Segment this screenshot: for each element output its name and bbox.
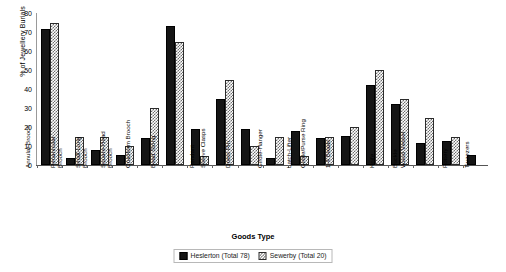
x-category-label: Sleeve Clasps (212, 168, 237, 226)
x-category-label: Small-Long Brooch (87, 168, 112, 226)
x-category-label: Latch-Lifter (288, 168, 313, 226)
y-tick-label: 60 (0, 48, 32, 55)
legend-swatch-heslerton (180, 252, 188, 260)
x-category-label: Knife (363, 168, 388, 226)
x-category-label-text: Girdle/Purse Ring (299, 116, 306, 168)
x-category-label-text: Girdle-Hanger (256, 129, 263, 168)
legend-item-heslerton: Heslerton (Total 78) (180, 252, 250, 260)
bar (451, 137, 460, 166)
y-tick-label: 70 (0, 29, 32, 36)
x-axis-category-labels: Annular BroochPenannular BroochSmall-Lon… (37, 168, 488, 226)
x-category-label: Cruciform Brooch (137, 168, 162, 226)
y-tick-label: 50 (0, 67, 32, 74)
bar (166, 26, 175, 165)
x-category-label-text: Tweezers (462, 142, 469, 168)
x-category-label: Bead String (162, 168, 187, 226)
x-category-label-text: Penannular Brooch (49, 116, 63, 168)
x-category-label: Dress Pin (238, 168, 263, 226)
bar-group (363, 13, 388, 165)
x-category-label: Girdle/Purse Ring (313, 168, 338, 226)
x-category-label-text: 1-4 Beads (324, 116, 331, 168)
y-tick-label: 40 (0, 86, 32, 93)
bar-group (338, 13, 363, 165)
legend-label-heslerton: Heslerton (Total 78) (191, 252, 250, 260)
x-axis-title: Goods Type (0, 232, 506, 241)
y-tick-label: 30 (0, 105, 32, 112)
x-category-label-text: Bead String (149, 116, 156, 168)
legend-swatch-sewerby (259, 252, 267, 260)
x-category-label-text: Pendant (188, 145, 195, 168)
x-category-label: Buckle (388, 168, 413, 226)
legend-item-sewerby: Sewerby (Total 20) (259, 252, 327, 260)
x-category-label: Girdle-Hanger (263, 168, 288, 226)
x-category-label-text: Dress Pin (224, 116, 231, 168)
x-category-label-text: Knife (368, 154, 375, 168)
x-category-label-text: Annular Brooch (24, 116, 31, 168)
bar (425, 118, 434, 166)
x-category-label-text: Pottery (441, 148, 448, 168)
x-category-label-text: Latch-Lifter (285, 137, 292, 168)
bar-group (413, 13, 438, 165)
bar-group (162, 13, 187, 165)
x-category-label-text: Cruciform Brooch (124, 116, 131, 168)
x-category-label-text: Wood Vessel (399, 116, 406, 168)
bar (266, 158, 275, 165)
bar (375, 70, 384, 165)
bar (350, 127, 359, 165)
bar (275, 137, 284, 166)
x-category-label: Square-Head Brooch (112, 168, 137, 226)
bar (241, 129, 250, 165)
legend-label-sewerby: Sewerby (Total 20) (270, 252, 327, 260)
x-category-label: Penannular Brooch (62, 168, 87, 226)
chart-legend: Heslerton (Total 78) Sewerby (Total 20) (174, 249, 333, 263)
x-category-label-text: Buckle (391, 149, 398, 168)
x-category-label: Pendant (187, 168, 212, 226)
x-category-label: Wood Vessel (413, 168, 438, 226)
x-category-label-text: Small-Long Brooch (74, 116, 88, 168)
x-category-label-text: Square-Head Brooch (99, 116, 113, 168)
x-category-label: Annular Brooch (37, 168, 62, 226)
bar (416, 143, 425, 165)
x-category-label: Pottery (438, 168, 463, 226)
x-category-label-text: Sleeve Clasps (199, 116, 206, 168)
x-category-label: Tweezers (463, 168, 488, 226)
bar (175, 42, 184, 166)
bar (341, 136, 350, 165)
bar-group (438, 13, 463, 165)
bar-chart: % of Jewellery Burials 01020304050607080… (0, 0, 506, 272)
x-category-label: 1-4 Beads (338, 168, 363, 226)
y-tick-label: 80 (0, 10, 32, 17)
